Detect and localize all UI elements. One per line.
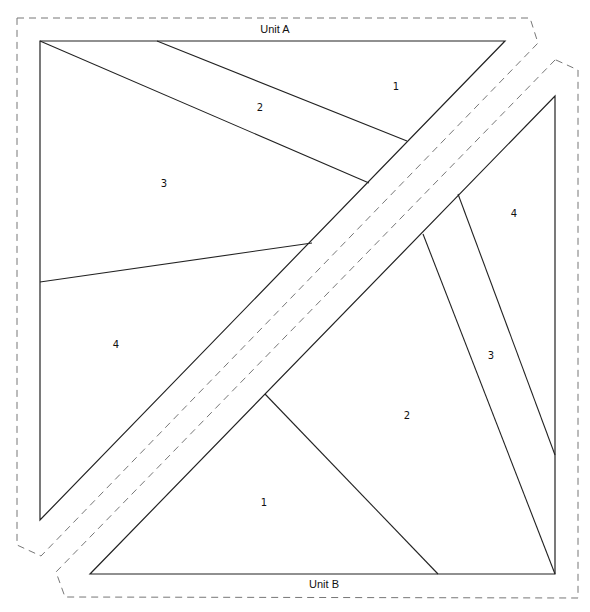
unit-b-piece-4-label: 4 [511, 208, 517, 219]
unit-a-label: Unit A [260, 23, 290, 35]
unit-b-label: Unit B [309, 578, 339, 590]
unit-a-piece-4-label: 4 [113, 339, 119, 350]
pattern-canvas: Unit A 1 2 3 4 Unit B 1 2 3 4 [0, 0, 590, 612]
unit-b-piece-3-label: 3 [488, 350, 494, 361]
unit-a-piece-3-label: 3 [161, 178, 167, 189]
unit-b-piece-2-label: 2 [404, 410, 410, 421]
unit-b-piece-1-label: 1 [261, 497, 267, 508]
unit-a-piece-1-label: 1 [393, 81, 399, 92]
unit-a-piece-2-label: 2 [257, 102, 263, 113]
